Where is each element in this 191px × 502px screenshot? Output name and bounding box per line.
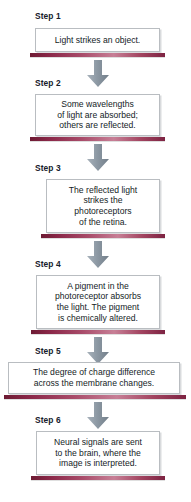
step-6-text: Neural signals are sent to the brain, wh…	[37, 437, 159, 469]
step-2-label: Step 2	[35, 78, 61, 88]
step-5-text: The degree of charge difference across t…	[9, 367, 179, 388]
arrow-step4-to-step5	[84, 337, 112, 365]
step-4-box: A pigment in the photoreceptor absorbs t…	[36, 275, 160, 329]
step-3-label: Step 3	[35, 163, 61, 173]
step-3-text: The reflected light strikes the photorec…	[47, 185, 159, 227]
step-2-accent-bar	[30, 137, 165, 141]
step-1-label: Step 1	[35, 11, 61, 21]
step-4-text: A pigment in the photoreceptor absorbs t…	[37, 281, 159, 323]
step-2-text: Some wavelengths of light are absorbed; …	[36, 99, 159, 131]
step-4-accent-bar	[31, 330, 165, 334]
arrow-step5-to-step6	[84, 402, 112, 430]
step-6-accent-bar	[31, 476, 165, 480]
step-5-box: The degree of charge difference across t…	[8, 362, 180, 394]
step-6-label: Step 6	[35, 415, 61, 425]
flowchart: Step 1 Light strikes an object. Step 2 S…	[0, 0, 191, 502]
step-1-accent-bar	[30, 53, 165, 57]
arrow-step3-to-step4	[84, 241, 112, 269]
step-1-text: Light strikes an object.	[36, 35, 159, 46]
step-5-accent-bar	[4, 395, 186, 399]
arrow-step1-to-step2	[84, 60, 112, 88]
arrow-step2-to-step3	[84, 144, 112, 172]
step-6-box: Neural signals are sent to the brain, wh…	[36, 431, 160, 475]
step-3-accent-bar	[41, 234, 165, 238]
step-4-label: Step 4	[35, 259, 61, 269]
step-5-label: Step 5	[35, 346, 61, 356]
step-3-box: The reflected light strikes the photorec…	[46, 179, 160, 233]
step-1-box: Light strikes an object.	[35, 28, 160, 52]
step-2-box: Some wavelengths of light are absorbed; …	[35, 94, 160, 136]
